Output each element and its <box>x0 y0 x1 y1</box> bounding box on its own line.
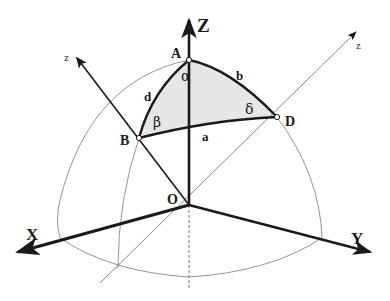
label-axis-z-right: z <box>356 39 361 51</box>
point-b-marker <box>136 135 141 140</box>
spherical-triangle-diagram: Z X Y z z A B D O a b d α β δ <box>0 0 390 301</box>
label-angle-beta: β <box>153 114 161 130</box>
label-point-b: B <box>120 133 129 148</box>
label-axis-z-left: z <box>64 51 69 63</box>
z-axis-right-line <box>100 32 356 283</box>
label-angle-alpha: α <box>181 68 191 84</box>
label-point-o: O <box>167 192 178 207</box>
point-a-marker <box>186 57 191 62</box>
y-axis-line <box>189 205 370 252</box>
label-axis-y: Y <box>351 229 363 248</box>
x-axis-line <box>18 205 189 252</box>
label-arc-a: a <box>202 129 209 144</box>
label-point-d: D <box>285 114 295 129</box>
label-axis-x: X <box>26 225 39 244</box>
label-arc-b: b <box>236 68 243 83</box>
label-angle-delta: δ <box>245 101 253 117</box>
label-arc-d: d <box>144 89 152 104</box>
point-d-marker <box>274 114 279 119</box>
label-axis-z: Z <box>197 15 210 36</box>
label-point-a: A <box>171 46 182 61</box>
